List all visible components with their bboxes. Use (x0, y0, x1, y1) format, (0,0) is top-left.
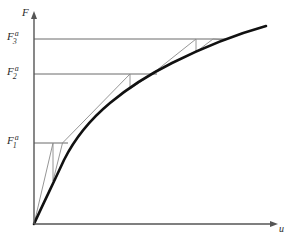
figure-canvas: F u Fa3 Fa2 Fa1 (0, 0, 294, 244)
load-level-lines (34, 39, 227, 143)
iteration-secant-to-level-2 (63, 74, 131, 143)
x-axis-label: u (279, 223, 284, 234)
axes (31, 11, 278, 227)
load-level-F1-subscript: 1 (13, 141, 17, 150)
load-level-label-F2: Fa2 (7, 65, 22, 77)
iteration-tangent-1 (34, 143, 53, 224)
force-displacement-diagram (0, 0, 294, 244)
iteration-path (34, 39, 226, 224)
load-level-label-F1: Fa1 (7, 134, 22, 146)
load-level-F2-subscript: 2 (13, 72, 17, 81)
load-level-label-F3: Fa3 (7, 30, 22, 42)
y-axis-arrowhead (31, 11, 37, 19)
x-axis-arrowhead (270, 221, 278, 227)
response-curve (34, 26, 266, 224)
y-axis-label: F (22, 6, 29, 18)
load-level-F3-subscript: 3 (13, 37, 17, 46)
